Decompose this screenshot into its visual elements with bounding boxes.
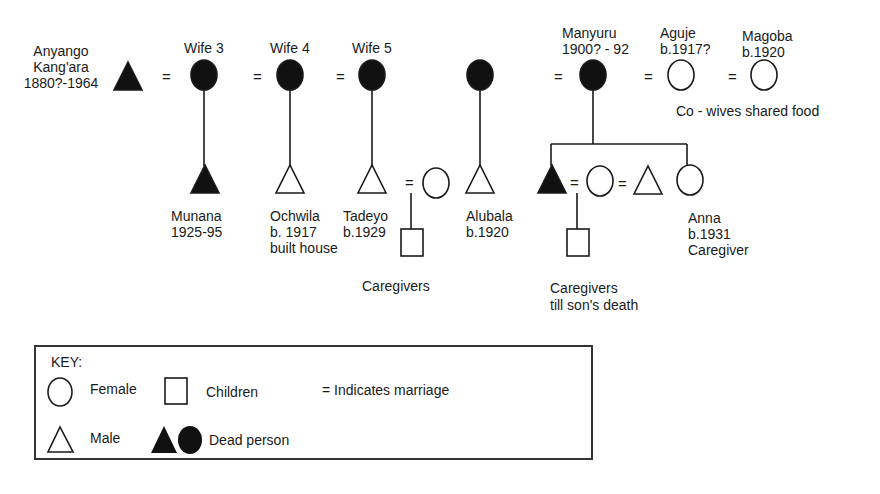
female-icon <box>423 168 449 198</box>
label-line: Wife 5 <box>352 40 392 56</box>
key-male-label: Male <box>90 430 120 446</box>
annotation-cowives: Co - wives shared food <box>676 103 819 119</box>
male-icon <box>466 165 494 193</box>
person-label-manyuru: Manyuru1900? - 92 <box>562 25 629 57</box>
label-line: b.1931 <box>688 226 749 242</box>
marriage-sign: = <box>405 175 414 191</box>
dead-female-icon <box>580 60 606 90</box>
label-line: Magoba <box>742 28 793 44</box>
label-line: b.1920 <box>466 224 513 240</box>
marriage-sign: = <box>554 69 563 85</box>
key-title: KEY: <box>51 354 82 370</box>
marriage-sign: = <box>253 69 262 85</box>
label-line: 1880?-1964 <box>8 75 114 91</box>
person-label-anna: Annab.1931Caregiver <box>688 210 749 258</box>
label-line: b. 1917 <box>270 224 338 240</box>
female-icon <box>751 60 777 90</box>
annotation-caregivers2b: till son's death <box>550 297 638 313</box>
male-icon <box>358 165 386 193</box>
person-label-wife4: Wife 4 <box>270 40 310 56</box>
label-line: Munana <box>171 208 222 224</box>
label-line: b.1917? <box>660 41 711 57</box>
person-label-magoba: Magobab.1920 <box>742 28 793 60</box>
label-line: Alubala <box>466 208 513 224</box>
label-line: 1900? - 92 <box>562 41 629 57</box>
label-line: b.1920 <box>742 44 793 60</box>
marriage-sign: = <box>618 176 627 192</box>
annotation-caregivers1: Caregivers <box>362 278 430 294</box>
child-icon <box>567 229 589 256</box>
key-marriage-label: = Indicates marriage <box>322 382 449 398</box>
dead-male-icon <box>538 165 566 193</box>
label-line: Kang'ara <box>8 59 114 75</box>
marriage-sign: = <box>728 69 737 85</box>
key-female-label: Female <box>90 381 137 397</box>
annotation-caregivers2: Caregivers <box>550 280 618 296</box>
person-label-ochwila: Ochwilab. 1917built house <box>270 208 338 256</box>
label-line: Wife 4 <box>270 40 310 56</box>
marriage-sign: = <box>570 175 579 191</box>
key-dead-label: Dead person <box>209 432 289 448</box>
person-label-wife5: Wife 5 <box>352 40 392 56</box>
label-line: Anyango <box>8 43 114 59</box>
dead-female-icon <box>277 60 303 90</box>
marriage-sign: = <box>644 69 653 85</box>
person-label-wife3: Wife 3 <box>184 40 224 56</box>
dead-male-icon <box>114 62 142 90</box>
male-icon <box>276 165 304 193</box>
person-label-anyango: AnyangoKang'ara1880?-1964 <box>8 43 114 91</box>
label-line: Tadeyo <box>343 208 388 224</box>
label-line: built house <box>270 240 338 256</box>
person-label-tadeyo: Tadeyob.1929 <box>343 208 388 240</box>
dead-female-icon <box>191 60 217 90</box>
label-line: Caregiver <box>688 242 749 258</box>
person-label-alubala: Alubalab.1920 <box>466 208 513 240</box>
label-line: Ochwila <box>270 208 338 224</box>
person-label-munana: Munana1925-95 <box>171 208 222 240</box>
dead-female-icon <box>467 60 493 90</box>
label-line: Manyuru <box>562 25 629 41</box>
label-line: Wife 3 <box>184 40 224 56</box>
marriage-sign: = <box>162 69 171 85</box>
female-icon <box>668 60 694 90</box>
label-line: Aguje <box>660 25 711 41</box>
female-icon <box>677 165 703 195</box>
key-children-label: Children <box>206 384 258 400</box>
label-line: Anna <box>688 210 749 226</box>
dead-male-icon <box>191 165 219 193</box>
child-icon <box>401 229 423 256</box>
dead-female-icon <box>359 60 385 90</box>
person-label-aguje: Agujeb.1917? <box>660 25 711 57</box>
marriage-sign: = <box>336 69 345 85</box>
female-icon <box>587 166 613 196</box>
male-icon <box>634 166 662 194</box>
label-line: 1925-95 <box>171 224 222 240</box>
label-line: b.1929 <box>343 224 388 240</box>
